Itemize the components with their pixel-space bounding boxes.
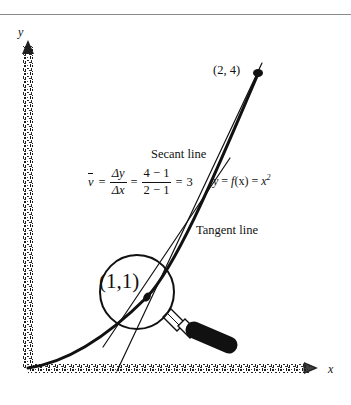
formula-denominator-values: 2 − 1 [142,184,172,198]
formula-delta-x: Δx [110,184,127,198]
y-axis-label: y [18,26,23,38]
function-eq2: = [248,174,261,188]
formula-numerator-values: 4 − 1 [142,167,172,181]
function-eq1: = [218,174,231,188]
figure-canvas: y x Secant line Tangent line (2, 4) (1,1… [0,0,351,405]
function-arg: (x) [234,174,248,188]
average-velocity-formula: v = Δy Δx = 4 − 1 2 − 1 = 3 [88,167,193,197]
formula-equals-3: = [171,175,186,190]
secant-line-label: Secant line [151,148,206,161]
formula-delta-y: Δy [110,167,127,181]
formula-result: 3 [186,175,192,190]
axis-x [28,362,318,374]
formula-fraction-delta: Δy Δx [110,167,127,197]
parabola-curve [28,74,258,368]
function-exponent: 2 [267,173,271,182]
x-axis-label: x [328,363,333,375]
point-label-1-1: (1,1) [99,271,139,292]
magnifier-grip [191,326,233,349]
point-marker-2-4 [253,69,263,77]
tangent-line-label: Tangent line [196,224,258,237]
formula-equals-1: = [95,175,110,190]
diagram-graphics [0,0,351,405]
formula-fraction-values: 4 − 1 2 − 1 [142,167,172,197]
point-label-2-4: (2, 4) [213,64,240,77]
formula-lhs: v [88,175,95,190]
formula-equals-2: = [127,175,142,190]
function-label: y = f(x) = x2 [213,174,271,187]
axis-y [22,40,34,368]
